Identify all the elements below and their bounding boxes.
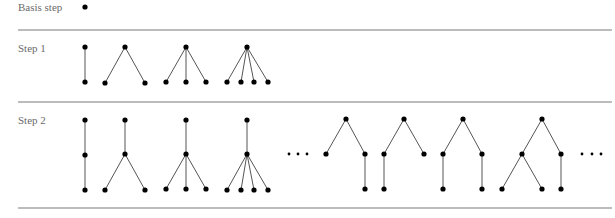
vertex — [224, 187, 229, 192]
root-vertex — [183, 117, 188, 122]
row-label: Step 1 — [18, 42, 46, 54]
rooted-tree — [499, 116, 563, 191]
tree-edge — [522, 154, 542, 189]
ellipsis-icon — [288, 153, 309, 156]
root-vertex — [183, 44, 188, 49]
root-vertex — [122, 117, 127, 122]
rooted-trees-recursive-construction-diagram: Basis stepStep 1Step 2 — [0, 0, 615, 218]
vertex — [163, 186, 168, 191]
root-vertex — [122, 44, 127, 49]
vertex — [122, 151, 127, 156]
tree-edge — [404, 119, 424, 154]
vertex — [381, 151, 386, 156]
vertex — [440, 186, 445, 191]
vertex — [539, 186, 544, 191]
vertex — [82, 152, 87, 157]
vertex — [251, 79, 256, 84]
vertex — [244, 151, 249, 156]
tree-edge — [105, 47, 125, 83]
root-vertex — [460, 116, 465, 121]
vertex — [519, 151, 524, 156]
rooted-tree — [163, 44, 208, 84]
vertex — [251, 187, 256, 192]
vertex — [265, 187, 270, 192]
vertex — [499, 186, 504, 191]
root-vertex — [343, 116, 348, 121]
tree-edge — [166, 154, 186, 189]
vertex — [102, 80, 107, 85]
vertex — [265, 79, 270, 84]
root-vertex — [401, 116, 406, 121]
tree-edge — [125, 47, 145, 83]
rooted-tree — [163, 117, 208, 191]
vertex — [102, 187, 107, 192]
root-vertex — [244, 117, 249, 122]
vertex — [142, 80, 147, 85]
tree-edge — [166, 47, 186, 82]
vertex — [142, 187, 147, 192]
root-vertex — [82, 117, 87, 122]
row-label: Basis step — [18, 1, 63, 13]
vertex — [421, 151, 426, 156]
vertex — [203, 79, 208, 84]
vertex — [558, 151, 563, 156]
tree-edge — [326, 119, 346, 154]
tree-edge — [443, 119, 463, 154]
tree-edge — [346, 119, 365, 154]
tree-edge — [186, 154, 206, 189]
root-vertex — [82, 4, 87, 9]
tree-edge — [463, 119, 482, 154]
vertex — [238, 79, 243, 84]
rooted-tree — [440, 116, 484, 191]
row-label: Step 2 — [18, 114, 46, 126]
tree-edge — [502, 154, 522, 189]
tree-edge — [522, 119, 542, 154]
vertex — [183, 79, 188, 84]
vertex — [163, 79, 168, 84]
row-0: Basis step — [18, 1, 88, 13]
vertex — [82, 79, 87, 84]
tree-edge — [125, 154, 145, 190]
root-vertex — [244, 44, 249, 49]
vertex — [323, 151, 328, 156]
vertex — [479, 186, 484, 191]
rooted-tree — [102, 117, 147, 192]
vertex — [362, 186, 367, 191]
row-2: Step 2 — [18, 114, 602, 193]
vertex — [183, 151, 188, 156]
tree-edge — [186, 47, 206, 82]
vertex — [440, 151, 445, 156]
vertex — [224, 79, 229, 84]
row-separators — [18, 30, 612, 208]
rooted-tree — [323, 116, 367, 191]
root-vertex — [539, 116, 544, 121]
vertex — [479, 151, 484, 156]
tree-edge — [542, 119, 561, 154]
rooted-tree — [82, 117, 87, 192]
rooted-tree — [82, 44, 87, 84]
row-1: Step 1 — [18, 42, 271, 86]
vertex — [238, 187, 243, 192]
rooted-tree — [82, 4, 87, 9]
rooted-tree — [381, 116, 426, 191]
rooted-tree — [224, 117, 270, 192]
ellipsis-icon — [581, 153, 603, 156]
vertex — [183, 186, 188, 191]
vertex — [203, 186, 208, 191]
vertex — [381, 186, 386, 191]
vertex — [82, 187, 87, 192]
vertex — [558, 186, 563, 191]
rooted-tree — [102, 44, 147, 85]
tree-edge — [105, 154, 125, 190]
vertex — [362, 151, 367, 156]
rooted-tree — [224, 44, 270, 84]
tree-edge — [384, 119, 404, 154]
root-vertex — [82, 44, 87, 49]
